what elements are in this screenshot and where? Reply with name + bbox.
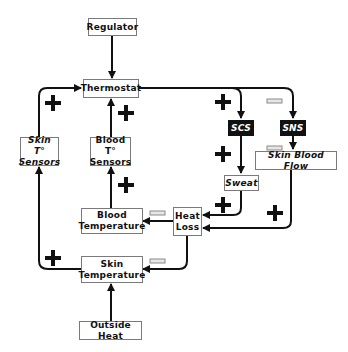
scs-node: SCS xyxy=(228,120,254,136)
regulator-label: Regulator xyxy=(87,22,139,33)
heat-loss-label-1: Heat xyxy=(175,211,200,222)
sns-label: SNS xyxy=(282,123,303,134)
minus-signs xyxy=(150,99,282,263)
skin-sensors-node: Skin T° Sensors xyxy=(20,137,59,166)
skin-sensors-label-2: Sensors xyxy=(19,157,61,168)
heat-loss-label-2: Loss xyxy=(176,222,199,233)
skin-temperature-label-1: Skin xyxy=(101,259,124,270)
blood-temperature-label-2: Temperature xyxy=(79,221,146,232)
sweat-label: Sweat xyxy=(225,178,257,189)
scs-label: SCS xyxy=(231,123,251,134)
blood-sensors-node: Blood T° Sensors xyxy=(90,137,131,166)
skin-blood-flow-node: Skin Blood Flow xyxy=(255,151,337,170)
blood-sensors-label-2: Sensors xyxy=(90,157,132,168)
sweat-node: Sweat xyxy=(224,175,259,191)
skin-sensors-label-1: Skin T° xyxy=(21,135,58,157)
skin-temperature-node: Skin Temperature xyxy=(81,256,143,283)
diagram-canvas: Regulator Thermostat Skin T° Sensors Blo… xyxy=(0,0,348,352)
connector-lines xyxy=(0,0,348,352)
outside-heat-node: Outside Heat xyxy=(79,321,142,340)
blood-sensors-label-1: Blood T° xyxy=(91,135,130,157)
heat-loss-node: Heat Loss xyxy=(173,207,202,236)
regulator-node: Regulator xyxy=(88,18,137,36)
thermostat-label: Thermostat xyxy=(81,83,142,94)
outside-heat-label: Outside Heat xyxy=(80,320,141,342)
skin-blood-flow-label: Skin Blood Flow xyxy=(256,150,336,172)
blood-temperature-node: Blood Temperature xyxy=(81,208,143,234)
sns-node: SNS xyxy=(280,120,306,136)
blood-temperature-label-1: Blood xyxy=(97,210,127,221)
thermostat-node: Thermostat xyxy=(83,79,139,98)
skin-temperature-label-2: Temperature xyxy=(79,270,146,281)
